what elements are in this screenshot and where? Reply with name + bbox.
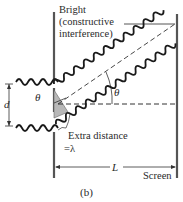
outgoing-wave-bottom [54,41,177,126]
bright-label-line1: Bright [59,4,86,16]
extra-distance-label: Extra distance [68,130,128,142]
L-label: L [112,161,118,173]
extra-distance-value: =λ [64,143,75,155]
theta-label-slit: θ [35,91,40,103]
d-label: d [4,98,10,110]
incoming-wave-top [16,79,58,85]
theta-label-center: θ [114,86,119,98]
bright-label-line3: interference) [59,28,113,40]
incoming-wave-bottom [16,125,58,131]
arrowhead-down [7,121,11,126]
bright-label-line2: (constructive [59,16,114,28]
screen-label: Screen [143,170,172,182]
arrowhead-up [7,84,11,89]
subfigure-label: (b) [80,186,93,198]
